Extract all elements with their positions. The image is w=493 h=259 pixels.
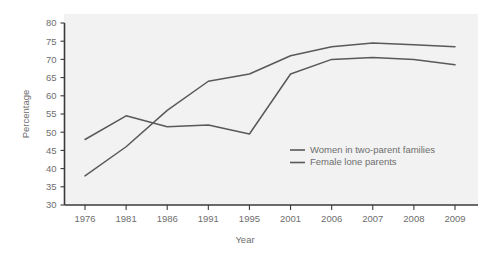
y-tick-label: 60	[46, 90, 57, 101]
y-tick-label: 45	[46, 145, 57, 156]
y-tick-label: 30	[46, 199, 57, 210]
y-tick-label: 70	[46, 54, 57, 65]
x-tick-label: 1995	[239, 213, 260, 224]
x-tick-label: 1981	[116, 213, 137, 224]
x-axis-title: Year	[235, 234, 254, 245]
y-axis-title: Percentage	[20, 90, 31, 139]
x-tick-label: 2006	[321, 213, 342, 224]
y-tick-label: 35	[46, 181, 57, 192]
y-tick-label: 40	[46, 163, 57, 174]
x-tick-label: 1976	[74, 213, 95, 224]
x-tick-label: 2008	[403, 213, 424, 224]
x-tick-label: 1991	[198, 213, 219, 224]
y-tick-label: 55	[46, 108, 57, 119]
y-tick-label: 50	[46, 127, 57, 138]
y-tick-label: 65	[46, 72, 57, 83]
series-line-1	[85, 43, 455, 176]
series-lines	[85, 43, 455, 176]
chart-figure: 3035404550556065707580 19761981198619911…	[0, 0, 493, 259]
y-tick-label: 75	[46, 36, 57, 47]
chart-legend: Women in two-parent familiesFemale lone …	[290, 144, 435, 168]
x-tick-label: 2007	[362, 213, 383, 224]
x-axis-ticks: 1976198119861991199520012006200720082009	[74, 205, 465, 224]
y-axis-ticks: 3035404550556065707580	[46, 17, 65, 210]
x-tick-label: 2009	[444, 213, 465, 224]
legend-label: Female lone parents	[310, 156, 397, 167]
x-tick-label: 2001	[280, 213, 301, 224]
legend-label: Women in two-parent families	[310, 144, 435, 155]
y-tick-label: 80	[46, 17, 57, 28]
line-chart: 3035404550556065707580 19761981198619911…	[0, 0, 493, 259]
x-tick-label: 1986	[157, 213, 178, 224]
series-line-2	[85, 58, 455, 140]
